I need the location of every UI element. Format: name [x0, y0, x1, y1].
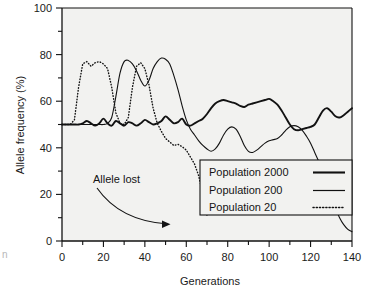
- x-tick-label: 60: [180, 251, 192, 263]
- legend-label-population-200: Population 200: [209, 184, 282, 196]
- chart-legend: Population 2000 Population 200 Populatio…: [200, 160, 352, 215]
- x-tick-label: 100: [260, 251, 278, 263]
- x-tick-label: 20: [97, 251, 109, 263]
- x-tick-label: 0: [59, 251, 65, 263]
- y-axis-title: Allele frequency (%): [14, 76, 26, 174]
- annotation-allele-lost: Allele lost: [93, 173, 140, 185]
- x-tick-label: 120: [301, 251, 319, 263]
- legend-label-population-20: Population 20: [209, 201, 276, 213]
- x-tick-label: 40: [139, 251, 151, 263]
- page-edge-artifact: n: [2, 249, 8, 260]
- allele-frequency-chart: 020406080100 020406080100120140 Allele f…: [0, 0, 367, 292]
- x-tick-label: 80: [222, 251, 234, 263]
- y-tick-label: 20: [40, 188, 52, 200]
- x-tick-label: 140: [343, 251, 361, 263]
- y-tick-label: 0: [46, 235, 52, 247]
- y-tick-label: 80: [40, 49, 52, 61]
- x-axis-title: Generations: [180, 275, 240, 287]
- y-tick-label: 100: [34, 2, 52, 14]
- y-tick-label: 60: [40, 95, 52, 107]
- legend-label-population-2000: Population 2000: [209, 166, 289, 178]
- y-tick-label: 40: [40, 142, 52, 154]
